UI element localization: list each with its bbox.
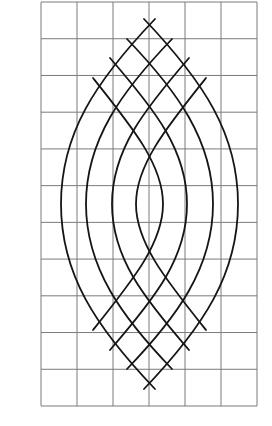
- arc-right-inner: [93, 78, 163, 330]
- arc-left-third: [112, 58, 189, 350]
- arc-lattice-diagram: [0, 0, 272, 426]
- arc-left-inner: [136, 78, 206, 330]
